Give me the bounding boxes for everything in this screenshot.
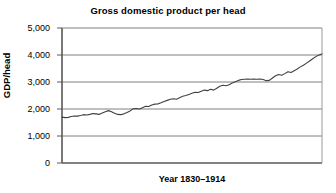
data-series-line: [62, 54, 322, 118]
plot-area: [0, 0, 336, 193]
x-axis-title: Year 1830–1914: [62, 174, 322, 184]
chart-figure: Gross domestic product per head GDP/head…: [0, 0, 336, 193]
gridlines: [62, 28, 322, 136]
